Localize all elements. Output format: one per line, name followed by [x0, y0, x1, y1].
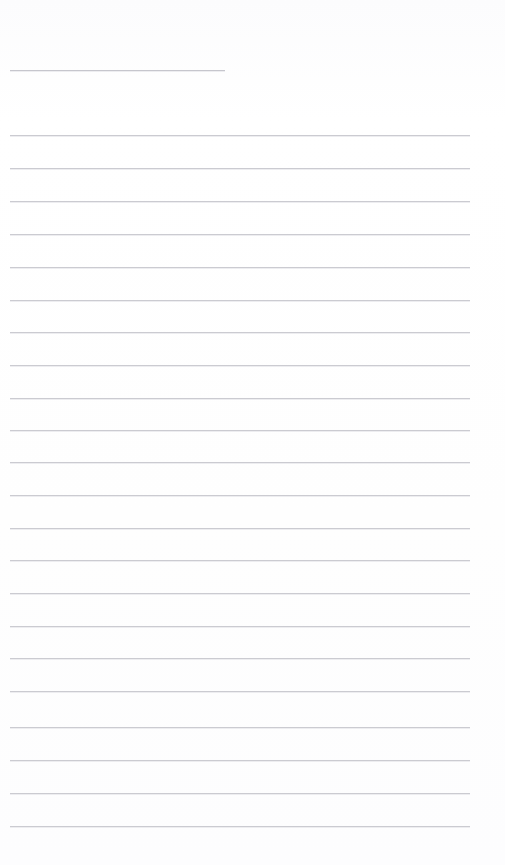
rule-14 [10, 560, 470, 561]
rule-12 [10, 495, 470, 496]
rule-21 [10, 793, 470, 794]
rule-2 [10, 168, 470, 169]
rule-8 [10, 365, 470, 366]
rule-20 [10, 760, 470, 761]
rule-1 [10, 135, 470, 136]
rule-5 [10, 267, 470, 268]
rule-16 [10, 626, 470, 627]
header-rule [10, 70, 225, 71]
rule-7 [10, 332, 470, 333]
rule-17 [10, 658, 470, 659]
rule-11 [10, 462, 470, 463]
rule-4 [10, 234, 470, 235]
writing-area[interactable] [0, 0, 505, 865]
rule-22 [10, 826, 470, 827]
rule-19 [10, 727, 470, 728]
rule-15 [10, 593, 470, 594]
rule-9 [10, 398, 470, 399]
rule-6 [10, 300, 470, 301]
rule-13 [10, 528, 470, 529]
rule-18 [10, 691, 470, 692]
rule-3 [10, 201, 470, 202]
rule-10 [10, 430, 470, 431]
lined-paper-page [0, 0, 505, 865]
